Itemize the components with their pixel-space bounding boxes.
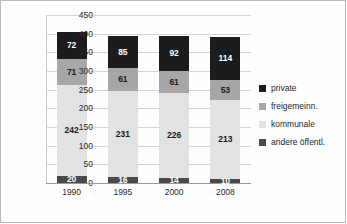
bar-segment-2000-freigemeinn-: 61 [159,71,189,94]
bar-segment-2008-private: 114 [210,37,240,80]
bar-segment-2000-kommunale: 226 [159,93,189,177]
x-tick-label-1995: 1995 [101,187,145,197]
legend-label: andere öffentl. [271,138,325,147]
bar-segment-value: 226 [167,131,181,140]
legend-swatch-icon [259,121,266,128]
legend-label: private [271,84,297,93]
legend-label: kommunale [271,120,315,129]
chart-legend: privatefreigemeinn.kommunaleandere öffen… [259,79,345,151]
bar-segment-value: 92 [169,49,178,58]
bar-segment-value: 61 [118,75,127,84]
bar-segment-value: 53 [221,86,230,95]
plot-area: 2024271721623161851422661921021353114 [46,15,251,183]
bar-segment-value: 242 [65,126,79,135]
legend-swatch-icon [259,85,266,92]
bar-segment-value: 14 [169,176,178,185]
legend-swatch-icon [259,139,266,146]
legend-item-private[interactable]: private [259,79,345,97]
bar-segment-value: 213 [218,135,232,144]
bar-segment-value: 71 [67,68,76,77]
bar-segment-1995-private: 85 [108,36,138,68]
bar-2008: 1021353114 [210,37,240,183]
y-tick-label-250: 250 [59,86,93,95]
bar-segment-value: 72 [67,41,76,50]
bar-segment-value: 16 [118,176,127,185]
y-tick-label-100: 100 [59,142,93,151]
x-tick-label-1990: 1990 [50,187,94,197]
bar-segment-1995-kommunale: 231 [108,91,138,177]
bar-1995: 162316185 [108,36,138,183]
bar-segment-value: 231 [116,130,130,139]
bar-segment-value: 114 [219,54,233,63]
legend-item-andere-öffentl-[interactable]: andere öffentl. [259,133,345,151]
y-tick-label-50: 50 [59,160,93,169]
bar-segment-value: 85 [118,48,127,57]
x-tick-label-2008: 2008 [203,187,247,197]
x-tick-label-2000: 2000 [152,187,196,197]
bar-segment-2008-freigemeinn-: 53 [210,80,240,100]
bar-2000: 142266192 [159,36,189,183]
bar-segment-value: 20 [67,175,76,184]
y-tick-label-400: 400 [59,30,93,39]
bar-segment-1995-freigemeinn-: 61 [108,68,138,91]
y-tick-label-350: 350 [59,48,93,57]
y-tick-label-200: 200 [59,104,93,113]
bar-segment-2008-kommunale: 213 [210,100,240,180]
legend-label: freigemeinn. [271,102,318,111]
y-tick-label-450: 450 [59,11,93,20]
bar-segment-2000-private: 92 [159,36,189,70]
legend-item-freigemeinn-[interactable]: freigemeinn. [259,97,345,115]
bar-segment-value: 10 [221,177,230,186]
legend-swatch-icon [259,103,266,110]
legend-item-kommunale[interactable]: kommunale [259,115,345,133]
chart-frame: 2024271721623161851422661921021353114 45… [0,0,346,223]
bar-segment-value: 61 [169,78,178,87]
